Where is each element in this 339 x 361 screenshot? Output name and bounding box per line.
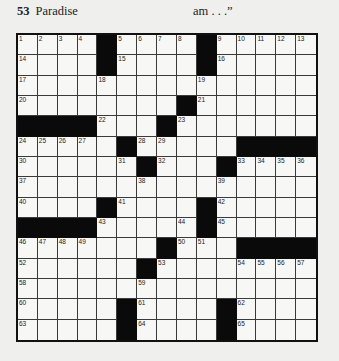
grid-cell[interactable] <box>117 116 137 136</box>
grid-cell[interactable] <box>256 218 276 238</box>
grid-cell[interactable]: 30 <box>18 157 38 177</box>
grid-cell[interactable] <box>237 279 257 299</box>
grid-cell[interactable] <box>256 96 276 116</box>
grid-cell[interactable] <box>78 55 98 75</box>
grid-cell[interactable]: 55 <box>256 259 276 279</box>
grid-cell[interactable] <box>58 177 78 197</box>
grid-cell[interactable] <box>256 198 276 218</box>
grid-cell[interactable] <box>117 96 137 116</box>
grid-cell[interactable] <box>78 299 98 319</box>
grid-cell[interactable]: 32 <box>157 157 177 177</box>
grid-cell[interactable]: 52 <box>18 259 38 279</box>
grid-cell[interactable]: 34 <box>256 157 276 177</box>
grid-cell[interactable] <box>276 76 296 96</box>
grid-cell[interactable] <box>177 137 197 157</box>
grid-cell[interactable]: 19 <box>197 76 217 96</box>
grid-cell[interactable]: 21 <box>197 96 217 116</box>
grid-cell[interactable] <box>38 320 58 340</box>
grid-cell[interactable]: 9 <box>217 35 237 55</box>
grid-cell[interactable]: 40 <box>18 198 38 218</box>
grid-cell[interactable] <box>276 299 296 319</box>
grid-cell[interactable]: 22 <box>97 116 117 136</box>
grid-cell[interactable] <box>97 299 117 319</box>
grid-cell[interactable] <box>217 259 237 279</box>
grid-cell[interactable] <box>256 116 276 136</box>
grid-cell[interactable] <box>296 299 316 319</box>
grid-cell[interactable]: 14 <box>18 55 38 75</box>
grid-cell[interactable]: 38 <box>137 177 157 197</box>
grid-cell[interactable] <box>137 96 157 116</box>
grid-cell[interactable]: 3 <box>58 35 78 55</box>
grid-cell[interactable] <box>97 320 117 340</box>
grid-cell[interactable] <box>157 55 177 75</box>
grid-cell[interactable] <box>97 96 117 116</box>
grid-cell[interactable] <box>78 320 98 340</box>
grid-cell[interactable] <box>217 279 237 299</box>
grid-cell[interactable]: 17 <box>18 76 38 96</box>
grid-cell[interactable] <box>157 218 177 238</box>
grid-cell[interactable] <box>97 177 117 197</box>
grid-cell[interactable] <box>38 76 58 96</box>
grid-cell[interactable] <box>237 198 257 218</box>
grid-cell[interactable] <box>97 238 117 258</box>
grid-cell[interactable] <box>237 76 257 96</box>
grid-cell[interactable] <box>97 279 117 299</box>
grid-cell[interactable]: 13 <box>296 35 316 55</box>
grid-cell[interactable]: 2 <box>38 35 58 55</box>
grid-cell[interactable] <box>177 157 197 177</box>
grid-cell[interactable] <box>276 320 296 340</box>
grid-cell[interactable] <box>117 259 137 279</box>
grid-cell[interactable]: 24 <box>18 137 38 157</box>
grid-cell[interactable]: 57 <box>296 259 316 279</box>
grid-cell[interactable]: 23 <box>177 116 197 136</box>
grid-cell[interactable]: 41 <box>117 198 137 218</box>
grid-cell[interactable]: 54 <box>237 259 257 279</box>
grid-cell[interactable]: 11 <box>256 35 276 55</box>
grid-cell[interactable] <box>58 96 78 116</box>
grid-cell[interactable] <box>197 137 217 157</box>
grid-cell[interactable]: 44 <box>177 218 197 238</box>
grid-cell[interactable] <box>58 320 78 340</box>
grid-cell[interactable] <box>177 198 197 218</box>
grid-cell[interactable] <box>177 55 197 75</box>
grid-cell[interactable] <box>197 259 217 279</box>
grid-cell[interactable]: 39 <box>217 177 237 197</box>
grid-cell[interactable] <box>177 279 197 299</box>
grid-cell[interactable]: 1 <box>18 35 38 55</box>
grid-cell[interactable] <box>38 96 58 116</box>
grid-cell[interactable]: 20 <box>18 96 38 116</box>
grid-cell[interactable] <box>78 259 98 279</box>
grid-cell[interactable] <box>276 116 296 136</box>
grid-cell[interactable]: 10 <box>237 35 257 55</box>
grid-cell[interactable] <box>38 55 58 75</box>
grid-cell[interactable] <box>177 320 197 340</box>
grid-cell[interactable] <box>137 76 157 96</box>
grid-cell[interactable]: 18 <box>97 76 117 96</box>
grid-cell[interactable] <box>256 55 276 75</box>
grid-cell[interactable]: 31 <box>117 157 137 177</box>
grid-cell[interactable] <box>58 299 78 319</box>
grid-cell[interactable] <box>296 96 316 116</box>
grid-cell[interactable] <box>296 177 316 197</box>
grid-cell[interactable] <box>197 299 217 319</box>
grid-cell[interactable] <box>137 116 157 136</box>
grid-cell[interactable]: 59 <box>137 279 157 299</box>
grid-cell[interactable] <box>177 76 197 96</box>
grid-cell[interactable] <box>117 177 137 197</box>
grid-cell[interactable]: 25 <box>38 137 58 157</box>
grid-cell[interactable] <box>117 218 137 238</box>
grid-cell[interactable] <box>296 279 316 299</box>
grid-cell[interactable]: 46 <box>18 238 38 258</box>
grid-cell[interactable] <box>197 177 217 197</box>
grid-cell[interactable]: 56 <box>276 259 296 279</box>
grid-cell[interactable] <box>137 55 157 75</box>
grid-cell[interactable] <box>117 279 137 299</box>
grid-cell[interactable] <box>256 76 276 96</box>
grid-cell[interactable] <box>197 157 217 177</box>
grid-cell[interactable] <box>38 259 58 279</box>
grid-cell[interactable]: 47 <box>38 238 58 258</box>
grid-cell[interactable] <box>78 157 98 177</box>
grid-cell[interactable]: 51 <box>197 238 217 258</box>
grid-cell[interactable]: 7 <box>157 35 177 55</box>
grid-cell[interactable]: 53 <box>157 259 177 279</box>
